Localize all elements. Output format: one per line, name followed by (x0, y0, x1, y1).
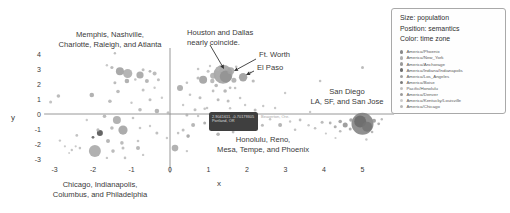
data-point[interactable] (329, 122, 332, 125)
data-point[interactable] (232, 131, 235, 134)
data-point[interactable] (235, 66, 238, 69)
data-point[interactable] (186, 82, 189, 85)
data-point[interactable] (149, 125, 151, 127)
data-point[interactable] (136, 71, 143, 78)
data-point[interactable] (325, 132, 327, 134)
data-point[interactable] (261, 124, 264, 127)
data-point[interactable] (203, 108, 206, 111)
data-point[interactable] (118, 126, 127, 135)
data-point[interactable] (307, 124, 309, 126)
data-point[interactable] (166, 137, 168, 139)
data-point[interactable] (197, 68, 200, 71)
data-point[interactable] (217, 98, 220, 101)
data-point[interactable] (110, 126, 114, 130)
data-point[interactable] (96, 128, 99, 131)
data-point[interactable] (153, 72, 157, 76)
data-point[interactable] (214, 84, 218, 88)
data-point[interactable] (136, 146, 140, 150)
data-point[interactable] (381, 118, 383, 120)
data-point[interactable] (239, 73, 247, 81)
data-point[interactable] (343, 123, 348, 128)
data-point[interactable] (229, 107, 231, 109)
data-point[interactable] (210, 73, 216, 79)
data-point[interactable] (111, 149, 115, 153)
legend-item[interactable]: America/Chicago (400, 104, 499, 110)
data-point[interactable] (103, 115, 107, 119)
data-point[interactable] (299, 119, 302, 122)
data-point[interactable] (49, 101, 52, 104)
data-point[interactable] (362, 122, 372, 132)
data-point[interactable] (157, 78, 160, 81)
data-point[interactable] (339, 130, 342, 133)
data-point[interactable] (189, 94, 192, 97)
data-point[interactable] (252, 79, 255, 82)
data-point[interactable] (338, 120, 342, 124)
data-point[interactable] (372, 119, 376, 123)
data-point[interactable] (132, 117, 135, 120)
data-point[interactable] (334, 137, 336, 139)
data-point[interactable] (123, 69, 132, 78)
data-point[interactable] (289, 120, 291, 122)
data-point[interactable] (124, 157, 127, 160)
data-point[interactable] (278, 123, 282, 127)
data-point[interactable] (92, 136, 95, 139)
data-point[interactable] (319, 80, 322, 83)
data-point[interactable] (75, 145, 77, 147)
data-point[interactable] (182, 129, 185, 132)
data-point[interactable] (365, 138, 367, 140)
data-point[interactable] (206, 107, 209, 110)
data-point[interactable] (309, 111, 311, 113)
data-point[interactable] (155, 132, 158, 135)
data-point[interactable] (191, 123, 195, 127)
data-point[interactable] (294, 129, 297, 132)
data-point[interactable] (314, 127, 317, 130)
data-point[interactable] (186, 150, 188, 152)
data-point[interactable] (172, 145, 179, 152)
data-point[interactable] (153, 87, 155, 89)
data-point[interactable] (113, 116, 121, 124)
data-point[interactable] (203, 122, 206, 125)
data-point[interactable] (223, 89, 227, 93)
data-point[interactable] (122, 147, 125, 150)
data-point[interactable] (349, 118, 353, 122)
data-point[interactable] (216, 67, 220, 71)
data-point[interactable] (71, 149, 73, 151)
data-point[interactable] (59, 139, 61, 141)
data-point[interactable] (116, 67, 124, 75)
data-point[interactable] (161, 97, 163, 99)
data-point[interactable] (142, 154, 144, 156)
data-point[interactable] (86, 119, 88, 121)
data-point[interactable] (155, 109, 160, 114)
data-point[interactable] (186, 134, 190, 138)
data-point[interactable] (227, 67, 234, 74)
data-point[interactable] (57, 94, 61, 98)
data-point[interactable] (79, 147, 82, 150)
data-point[interactable] (210, 79, 214, 83)
data-point[interactable] (212, 90, 215, 93)
data-point[interactable] (321, 121, 324, 124)
data-point[interactable] (239, 97, 242, 100)
data-point[interactable] (177, 132, 180, 135)
data-point[interactable] (197, 115, 199, 117)
data-point[interactable] (106, 139, 110, 143)
data-point[interactable] (114, 52, 116, 54)
data-point[interactable] (244, 104, 246, 106)
data-point[interactable] (284, 92, 286, 94)
data-point[interactable] (167, 111, 170, 114)
data-point[interactable] (194, 108, 197, 111)
data-point[interactable] (207, 70, 210, 73)
data-point[interactable] (110, 66, 113, 69)
data-point[interactable] (138, 108, 142, 112)
data-point[interactable] (89, 145, 101, 157)
data-point[interactable] (106, 64, 108, 66)
data-point[interactable] (142, 68, 145, 71)
data-point[interactable] (142, 89, 145, 92)
data-point[interactable] (182, 104, 184, 106)
data-point[interactable] (231, 78, 236, 83)
data-point[interactable] (229, 86, 232, 89)
data-point[interactable] (64, 145, 66, 147)
data-point[interactable] (209, 65, 211, 67)
data-point[interactable] (106, 157, 108, 159)
data-point[interactable] (274, 107, 276, 109)
data-point[interactable] (149, 70, 152, 73)
